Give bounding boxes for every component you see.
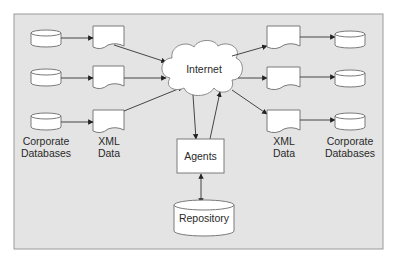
left-database-1 (31, 30, 61, 47)
right-db-label-line1: Corporate (327, 135, 374, 147)
data-flow-diagram: Internet Corporate Databases XML Data XM… (0, 0, 396, 262)
right-db-label-line2: Databases (325, 147, 375, 159)
left-db-label-line2: Databases (21, 147, 71, 159)
right-database-2 (335, 70, 365, 87)
right-database-3 (335, 113, 365, 130)
right-xml-label-line2: Data (273, 147, 295, 159)
left-db-label-line1: Corporate (23, 135, 70, 147)
internet-label: Internet (186, 63, 222, 75)
agents-label: Agents (184, 150, 217, 162)
left-database-2 (31, 69, 61, 86)
left-xml-label-line2: Data (98, 147, 120, 159)
left-xml-label-line1: XML (98, 135, 120, 147)
repository-label: Repository (179, 212, 230, 224)
repository-database: Repository (174, 200, 234, 236)
left-database-3 (31, 113, 61, 130)
agents-box: Agents (177, 139, 224, 173)
right-database-1 (335, 31, 365, 48)
internet-cloud: Internet (162, 40, 242, 95)
right-xml-label-line1: XML (273, 135, 295, 147)
